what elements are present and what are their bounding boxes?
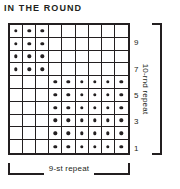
chart-cell xyxy=(115,63,128,76)
chart-cell xyxy=(23,115,36,128)
chart-cell xyxy=(49,140,62,153)
chart-cell xyxy=(76,38,89,51)
chart-cell xyxy=(89,51,102,64)
chart-cell xyxy=(49,115,62,128)
chart-cell xyxy=(115,115,128,128)
chart-cell xyxy=(76,102,89,115)
chart-cell xyxy=(62,51,75,64)
chart-cell xyxy=(102,25,115,38)
round-number-label: 1 xyxy=(132,142,146,155)
purl-dot-icon xyxy=(120,106,123,109)
chart-cell xyxy=(102,127,115,140)
purl-dot-icon xyxy=(67,119,70,122)
vertical-repeat-bracket xyxy=(150,23,162,155)
purl-dot-icon xyxy=(80,145,83,148)
purl-dot-icon xyxy=(54,132,57,135)
chart-cell xyxy=(76,140,89,153)
chart-cell xyxy=(23,38,36,51)
chart-cell xyxy=(36,63,49,76)
purl-dot-icon xyxy=(14,68,17,71)
chart-cell xyxy=(62,102,75,115)
round-number-axis: 97531 xyxy=(132,23,146,155)
chart-cell xyxy=(102,115,115,128)
chart-cell xyxy=(23,25,36,38)
round-number-label xyxy=(132,102,146,115)
round-number-label xyxy=(132,129,146,142)
purl-dot-icon xyxy=(41,55,44,58)
purl-dot-icon xyxy=(120,145,123,148)
chart-cell xyxy=(49,89,62,102)
chart-cell xyxy=(115,38,128,51)
chart-cell xyxy=(62,38,75,51)
purl-dot-icon xyxy=(67,80,70,83)
chart-cell xyxy=(23,127,36,140)
purl-dot-icon xyxy=(41,68,44,71)
chart-cell xyxy=(102,89,115,102)
chart-cell xyxy=(10,140,23,153)
chart-cell xyxy=(49,76,62,89)
chart-cell xyxy=(36,76,49,89)
purl-dot-icon xyxy=(67,93,70,96)
purl-dot-icon xyxy=(54,145,57,148)
purl-dot-icon xyxy=(106,145,109,148)
purl-dot-icon xyxy=(14,29,17,32)
chart-cell xyxy=(115,76,128,89)
chart-cell xyxy=(102,63,115,76)
purl-dot-icon xyxy=(93,80,96,83)
chart-cell xyxy=(89,38,102,51)
chart-cell xyxy=(76,51,89,64)
purl-dot-icon xyxy=(80,106,83,109)
bracket-line-left xyxy=(8,173,44,175)
purl-dot-icon xyxy=(120,119,123,122)
chart-cell xyxy=(49,63,62,76)
chart-cell xyxy=(76,115,89,128)
chart-cell xyxy=(115,25,128,38)
chart-cell xyxy=(76,76,89,89)
chart-cell xyxy=(49,102,62,115)
chart-cell xyxy=(10,102,23,115)
purl-dot-icon xyxy=(54,93,57,96)
purl-dot-icon xyxy=(106,119,109,122)
chart-cell xyxy=(89,127,102,140)
chart-cell xyxy=(102,140,115,153)
chart-cell xyxy=(62,76,75,89)
bracket-line-right xyxy=(94,173,130,175)
chart-cell xyxy=(36,51,49,64)
chart-cell xyxy=(36,89,49,102)
purl-dot-icon xyxy=(54,106,57,109)
purl-dot-icon xyxy=(106,132,109,135)
chart-cell xyxy=(10,76,23,89)
purl-dot-icon xyxy=(54,80,57,83)
purl-dot-icon xyxy=(106,106,109,109)
chart-cell xyxy=(102,102,115,115)
stitch-chart xyxy=(8,23,130,155)
purl-dot-icon xyxy=(14,42,17,45)
chart-cell xyxy=(102,38,115,51)
chart-cell xyxy=(10,25,23,38)
purl-dot-icon xyxy=(27,29,30,32)
chart-cell xyxy=(36,140,49,153)
chart-cell xyxy=(89,89,102,102)
chart-cell xyxy=(89,115,102,128)
round-number-label: 9 xyxy=(132,36,146,49)
chart-grid xyxy=(8,23,130,155)
chart-cell xyxy=(10,51,23,64)
chart-cell xyxy=(10,38,23,51)
chart-cell xyxy=(76,127,89,140)
purl-dot-icon xyxy=(27,55,30,58)
chart-cell xyxy=(115,140,128,153)
purl-dot-icon xyxy=(93,145,96,148)
chart-cell xyxy=(102,76,115,89)
chart-cell xyxy=(23,140,36,153)
round-number-label xyxy=(132,49,146,62)
chart-cell xyxy=(62,127,75,140)
round-number-label: 7 xyxy=(132,63,146,76)
chart-cell xyxy=(115,51,128,64)
chart-cell xyxy=(10,127,23,140)
purl-dot-icon xyxy=(80,132,83,135)
horizontal-repeat-label: 9-st repeat xyxy=(8,164,130,173)
chart-cell xyxy=(76,89,89,102)
purl-dot-icon xyxy=(106,93,109,96)
chart-cell xyxy=(115,127,128,140)
chart-cell xyxy=(89,140,102,153)
